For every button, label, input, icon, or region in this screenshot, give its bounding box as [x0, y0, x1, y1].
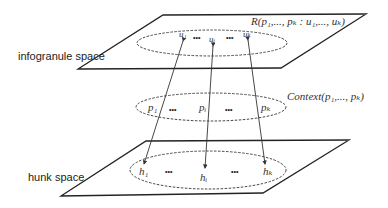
infogranule-space-label: infogranule space — [18, 50, 105, 62]
context-label: Context(p₁,..., pₖ) — [287, 90, 364, 103]
element-hi: hᵢ — [200, 171, 208, 183]
element-u1: u₁ — [179, 29, 187, 39]
element-ui: uᵢ — [209, 34, 216, 44]
ellipsis-dots: ••• — [165, 168, 173, 175]
ellipsis-dots: ••• — [231, 168, 239, 175]
infogranule-plane: infogranule space R(p₁,..., pₖ : u₁,...,… — [18, 14, 366, 69]
ellipsis-dots: ••• — [226, 34, 234, 41]
element-h1: h₁ — [139, 165, 149, 177]
hunk-plane: hunk space h₁ ••• hᵢ ••• hₖ — [28, 140, 349, 196]
ellipsis-dots: ••• — [169, 106, 177, 113]
context-layer: Context(p₁,..., pₖ) p₁ ••• pᵢ ••• pₖ — [136, 90, 364, 121]
ellipsis-dots: ••• — [193, 34, 201, 41]
ellipsis-dots: ••• — [225, 106, 233, 113]
diagram-canvas: infogranule space R(p₁,..., pₖ : u₁,...,… — [0, 0, 388, 208]
hunk-space-label: hunk space — [28, 171, 84, 183]
element-pk: pₖ — [260, 101, 271, 113]
element-p1: p₁ — [147, 101, 158, 113]
relation-label: R(p₁,..., pₖ : u₁,..., uₖ) — [250, 15, 345, 28]
element-hk: hₖ — [263, 165, 273, 177]
element-uk: uₖ — [243, 29, 252, 39]
element-pi: pᵢ — [198, 101, 207, 113]
